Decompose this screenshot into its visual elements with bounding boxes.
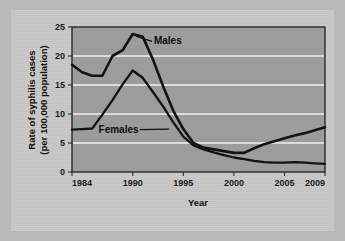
x-tick-label-2005: 2005	[275, 178, 295, 188]
y-axis-title-line1: Rate of syphilis cases	[26, 50, 37, 149]
x-tick-label-1995: 1995	[173, 178, 193, 188]
y-tick-label-10: 10	[55, 109, 65, 119]
y-axis: 0510152025	[55, 22, 72, 177]
y-tick-label-25: 25	[55, 22, 65, 32]
y-tick-label-5: 5	[60, 138, 65, 148]
chart-canvas: 0510152025 198419901995200020052009 Male…	[0, 0, 345, 241]
x-tick-label-1984: 1984	[72, 178, 92, 188]
x-axis: 198419901995200020052009	[72, 172, 325, 188]
y-tick-label-0: 0	[60, 167, 65, 177]
x-axis-title: Year	[188, 197, 208, 208]
series-annotation-females: Females	[99, 124, 139, 135]
y-tick-label-20: 20	[55, 51, 65, 61]
y-axis-title-line2: (per 100,000 population)	[38, 45, 49, 154]
figure-root: 0510152025 198419901995200020052009 Male…	[0, 0, 345, 241]
x-tick-label-2000: 2000	[224, 178, 244, 188]
plot-area-background	[72, 27, 325, 172]
x-tick-label-2009: 2009	[305, 178, 325, 188]
leader-line-females	[140, 129, 170, 130]
y-tick-label-15: 15	[55, 80, 65, 90]
series-annotation-males: Males	[154, 35, 182, 46]
x-tick-label-1990: 1990	[123, 178, 143, 188]
